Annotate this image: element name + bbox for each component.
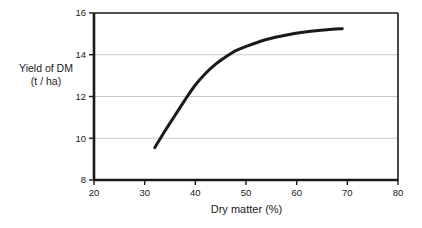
y-tick-label: 14: [75, 49, 86, 60]
x-tick-label: 70: [342, 187, 353, 198]
x-tick-label: 50: [241, 187, 252, 198]
y-tick-label: 16: [75, 7, 86, 18]
y-tick-label: 10: [75, 133, 86, 144]
y-tick-label: 8: [81, 174, 86, 185]
x-tick-label: 20: [89, 187, 100, 198]
chart-figure: Yield of DM (t / ha) 810121416 203040506…: [0, 0, 422, 228]
x-tick-label: 60: [291, 187, 302, 198]
x-tick-label: 80: [393, 187, 404, 198]
x-tick-label: 30: [139, 187, 150, 198]
x-axis-ticks: 20304050607080: [89, 180, 404, 198]
data-series-line: [155, 29, 342, 148]
y-tick-label: 12: [75, 91, 86, 102]
y-axis-ticks: 810121416: [75, 7, 94, 185]
x-tick-label: 40: [190, 187, 201, 198]
x-axis-title: Dry matter (%): [94, 203, 399, 215]
plot-area: 810121416 20304050607080: [0, 0, 422, 228]
gridlines: [94, 55, 398, 139]
